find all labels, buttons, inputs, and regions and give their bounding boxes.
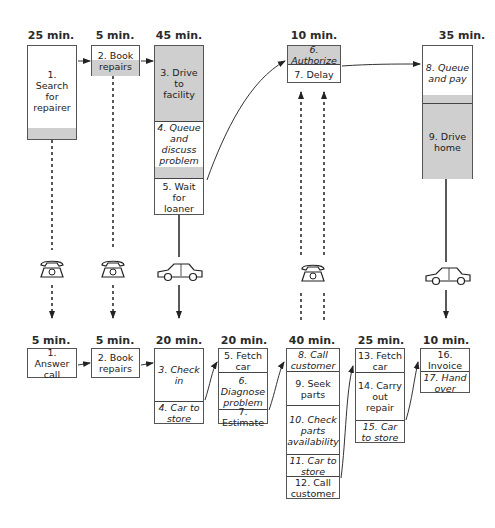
telephone-icon [38,258,66,280]
arrow-7-8 [342,64,420,66]
telephone-icon [299,262,327,284]
connector-layer [0,0,495,528]
arrow-5-6 [207,61,285,180]
car-icon [424,266,472,288]
car-icon [156,262,204,284]
telephone-icon [99,258,127,280]
